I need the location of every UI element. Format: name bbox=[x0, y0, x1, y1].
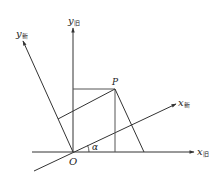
p-to-y-new-projection bbox=[58, 89, 115, 119]
svg-text:新: 新 bbox=[22, 32, 28, 40]
angle-label: α bbox=[92, 142, 98, 152]
point-label: P bbox=[111, 77, 119, 87]
rotation-diagram: α O P y 旧 y 新 x 新 x 旧 bbox=[0, 0, 222, 177]
x-old-label: x 旧 bbox=[197, 146, 209, 158]
x-new-label: x 新 bbox=[178, 97, 190, 109]
svg-text:y: y bbox=[67, 15, 74, 26]
p-perpendicular-to-x-new bbox=[115, 89, 144, 152]
y-new-label: y 新 bbox=[15, 28, 28, 40]
svg-text:旧: 旧 bbox=[74, 19, 80, 27]
svg-text:旧: 旧 bbox=[203, 150, 209, 158]
x-new-axis bbox=[34, 104, 176, 171]
y-old-label: y 旧 bbox=[67, 15, 80, 27]
svg-text:y: y bbox=[15, 28, 22, 39]
y-new-axis bbox=[23, 41, 73, 152]
svg-text:新: 新 bbox=[184, 101, 190, 109]
origin-label: O bbox=[69, 156, 77, 167]
angle-arc bbox=[88, 145, 90, 152]
